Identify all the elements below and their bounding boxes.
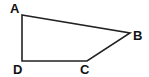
vertex-label-d: D (13, 62, 22, 77)
vertex-label-a: A (10, 1, 20, 16)
quadrilateral-diagram: A B C D (0, 0, 149, 77)
vertex-label-c: C (80, 62, 90, 77)
quadrilateral-abcd (22, 15, 130, 61)
vertex-label-b: B (133, 28, 142, 43)
